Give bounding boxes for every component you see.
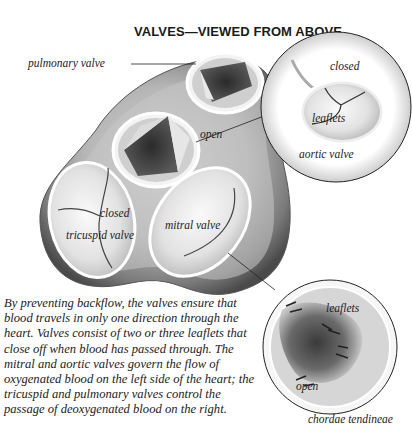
label-chordae-tendineae: chordae tendineae: [308, 413, 393, 425]
label-leaflets-mitral-inset: leaflets: [326, 302, 359, 314]
caption-line: close off when blood has passed through.…: [4, 342, 259, 357]
label-open-aortic: open: [200, 128, 222, 140]
caption-line: tricuspid and pulmonary valves control t…: [4, 387, 259, 402]
label-aortic-valve: aortic valve: [299, 148, 354, 160]
caption-line: passage of deoxygenated blood on the rig…: [4, 402, 259, 417]
caption-line: heart. Valves consist of two or three le…: [4, 326, 259, 341]
caption-line: By preventing backflow, the valves ensur…: [4, 296, 259, 311]
label-open-mitral-inset: open: [296, 380, 318, 392]
label-closed-tricuspid: closed: [100, 207, 129, 219]
caption-line: oxygenated blood on the left side of the…: [4, 372, 259, 387]
caption-line: mitral and aortic valves govern the flow…: [4, 357, 259, 372]
figure-caption: By preventing backflow, the valves ensur…: [4, 296, 259, 418]
label-leaflets-aortic-inset: leaflets: [312, 112, 345, 124]
label-tricuspid-valve: tricuspid valve: [66, 229, 134, 241]
label-mitral-valve: mitral valve: [165, 219, 220, 231]
label-closed-aortic-inset: closed: [330, 60, 359, 72]
caption-line: blood travels in only one direction thro…: [4, 311, 259, 326]
label-pulmonary-valve: pulmonary valve: [28, 57, 105, 69]
